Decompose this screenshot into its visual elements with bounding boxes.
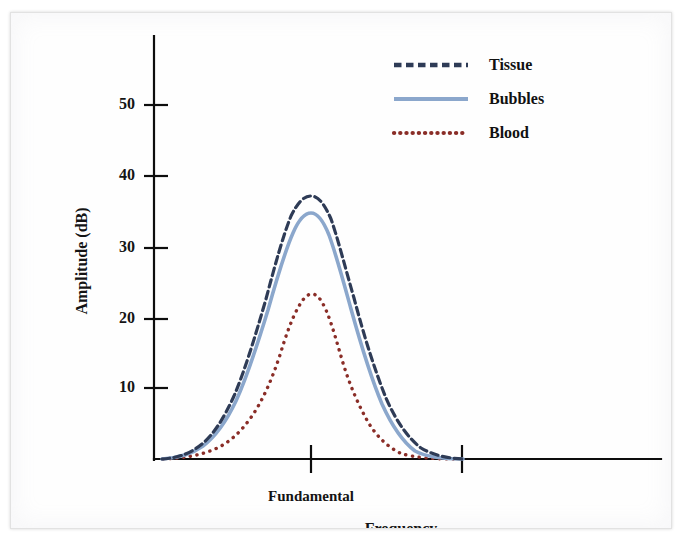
y-tick-label-20: 20 (119, 309, 135, 326)
legend-label-bubbles: Bubbles (489, 90, 544, 107)
series-group (162, 196, 466, 459)
series-line-bubbles (162, 213, 463, 459)
y-axis-title: Amplitude (dB) (73, 207, 91, 314)
y-tick-label-50: 50 (119, 95, 135, 112)
x-tick-label-fundamental: Fundamental (268, 488, 354, 504)
figure-frame: 50 40 30 20 10 Fundamental Amplitude (dB… (10, 12, 672, 529)
y-ticks-group: 50 40 30 20 10 (119, 95, 168, 395)
series-line-blood (163, 294, 456, 459)
figure-page: 50 40 30 20 10 Fundamental Amplitude (dB… (0, 0, 684, 556)
y-tick-label-10: 10 (119, 378, 135, 395)
series-line-tissue (162, 196, 466, 459)
y-tick-label-40: 40 (119, 166, 135, 183)
y-tick-label-30: 30 (119, 238, 135, 255)
legend-label-tissue: Tissue (489, 56, 532, 73)
legend-label-blood: Blood (489, 124, 529, 141)
legend: Tissue Bubbles Blood (394, 56, 544, 141)
chart-canvas: 50 40 30 20 10 Fundamental Amplitude (dB… (11, 13, 671, 528)
x-axis-title: Frequency (365, 520, 438, 528)
